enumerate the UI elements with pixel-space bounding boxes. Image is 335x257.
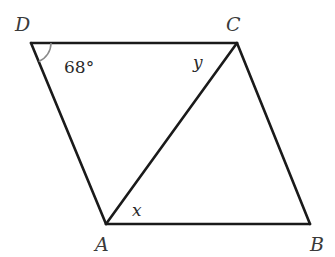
side-cb <box>237 43 310 224</box>
angle-label-d: 68° <box>64 57 94 77</box>
angle-arc-d <box>39 43 51 62</box>
angle-label-x: x <box>132 200 142 220</box>
vertex-label-d: D <box>14 13 30 35</box>
parallelogram-diagram: D C A B 68° y x <box>0 0 335 257</box>
angle-label-y: y <box>192 52 203 72</box>
diagonal-ac <box>106 43 237 224</box>
vertex-label-a: A <box>93 233 109 255</box>
vertex-label-c: C <box>226 13 241 35</box>
vertex-label-b: B <box>309 233 324 255</box>
